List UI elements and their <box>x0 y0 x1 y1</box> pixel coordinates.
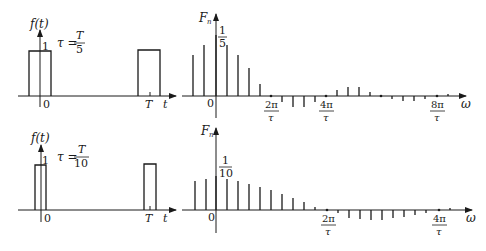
tick-8pi-den: τ <box>434 112 440 123</box>
origin-label: 0 <box>43 98 50 111</box>
tick-2pi-num: 2π <box>265 99 278 110</box>
omega-axis-label: ω <box>461 97 471 111</box>
origin-label: 0 <box>207 97 214 110</box>
period-label: T <box>145 98 154 111</box>
f-axis-label: f(t) <box>29 17 49 31</box>
tick-2pi-den: τ <box>325 226 331 237</box>
peak-num: 1 <box>219 24 226 37</box>
tick-4pi-num: 4π <box>320 99 333 110</box>
t-axis-label: t <box>163 212 168 225</box>
peak-num: 1 <box>222 154 229 167</box>
f-axis-label: f(t) <box>30 131 50 145</box>
tau-num: T <box>76 29 85 42</box>
spectrum-plot-tau-T5: F n 1 5 0 2π τ 4π τ 8π τ ω <box>182 11 471 123</box>
period-label: T <box>145 212 154 225</box>
omega-axis-label: ω <box>466 211 476 225</box>
origin-label: 0 <box>44 212 51 225</box>
tick-4pi-den: τ <box>323 112 329 123</box>
tick-8pi-num: 8π <box>431 99 444 110</box>
tick-4pi-den: τ <box>436 226 442 237</box>
tau-den: 5 <box>76 43 83 56</box>
pulse-T <box>138 50 160 96</box>
time-plot-tau-T10: f(t) 1 0 T t τ = T 10 <box>18 131 176 225</box>
Fn-axis-label-sub: n <box>207 18 212 26</box>
amp-label: 1 <box>42 154 49 167</box>
periodic-pulse-spectrum-figure: f(t) 1 0 T t τ = T 5 <box>0 0 486 251</box>
peak-den: 10 <box>219 167 233 180</box>
amp-label: 1 <box>42 40 49 53</box>
tau-den: 10 <box>74 157 88 170</box>
tau-num: T <box>78 143 87 156</box>
tick-2pi-num: 2π <box>322 213 335 224</box>
Fn-axis-label-sub: n <box>209 131 214 139</box>
time-plot-tau-T5: f(t) 1 0 T t τ = T 5 <box>18 17 176 111</box>
origin-label: 0 <box>208 211 215 224</box>
t-axis-label: t <box>163 98 168 111</box>
pulse-T <box>144 164 156 210</box>
tick-2pi-den: τ <box>268 112 274 123</box>
peak-den: 5 <box>219 37 226 50</box>
spectrum-plot-tau-T10: F n 1 10 0 2π τ 4π τ ω <box>182 124 476 237</box>
tick-4pi-num: 4π <box>433 213 446 224</box>
